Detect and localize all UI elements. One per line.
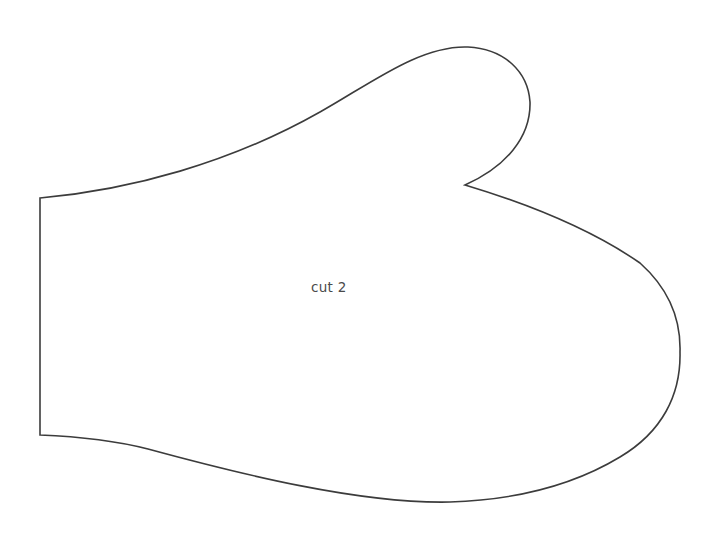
cut-quantity-label: cut 2 bbox=[311, 279, 347, 295]
pattern-outline-path bbox=[40, 47, 680, 502]
pattern-canvas: cut 2 bbox=[0, 0, 723, 534]
mitten-pattern-outline bbox=[0, 0, 723, 534]
